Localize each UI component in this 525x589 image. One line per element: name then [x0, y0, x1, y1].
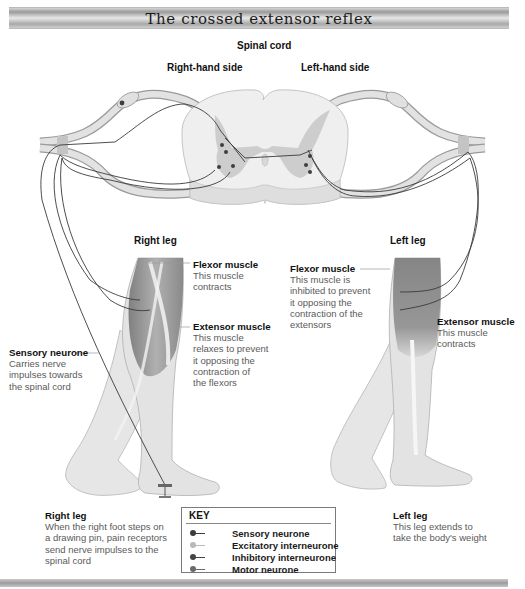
left-leg-description: Left leg This leg extends to take the bo…	[393, 510, 487, 544]
reflex-illustration	[0, 0, 525, 589]
excitatory-interneurone-symbol-icon	[190, 539, 212, 551]
spinal-cord-heading: Spinal cord	[237, 40, 291, 51]
left-extensor-annotation: Extensor muscle This muscle contracts	[437, 316, 515, 350]
key-item-inhibitory: Inhibitory interneurone	[190, 551, 336, 563]
inhibitory-interneurone-symbol-icon	[190, 551, 212, 563]
sensory-neurone-annotation: Sensory neurone Carries nerve impulses t…	[9, 347, 88, 392]
left-hand-side-heading: Left-hand side	[301, 62, 369, 73]
key-title: KEY	[189, 510, 210, 521]
motor-neurone-symbol-icon	[190, 563, 212, 575]
left-leg-heading: Left leg	[390, 235, 426, 246]
key-divider	[186, 523, 331, 524]
right-leg-heading: Right leg	[134, 235, 177, 246]
sensory-neurone-symbol-icon	[190, 527, 212, 539]
key-item-motor: Motor neurone	[190, 563, 299, 575]
right-hand-side-heading: Right-hand side	[167, 62, 243, 73]
key-item-excitatory: Excitatory interneurone	[190, 539, 339, 551]
key-item-sensory: Sensory neurone	[190, 527, 310, 539]
right-flexor-annotation: Flexor muscle This muscle contracts	[193, 259, 258, 293]
right-extensor-annotation: Extensor muscle This muscle relaxes to p…	[193, 321, 271, 388]
right-leg-description: Right leg When the right foot steps on a…	[45, 510, 167, 566]
left-flexor-annotation: Flexor muscle This muscle is inhibited t…	[290, 263, 370, 330]
bottom-bar	[0, 579, 508, 587]
key-legend: KEY Sensory neurone Excitatory interneur…	[181, 507, 336, 573]
spinal-cord-cross-section	[182, 90, 348, 204]
